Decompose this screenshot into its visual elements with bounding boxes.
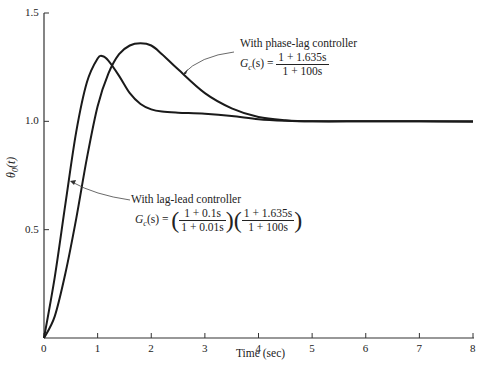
x-tick-label: 5 <box>309 342 315 354</box>
y-tick-label: 0.5 <box>25 223 39 235</box>
paren-close: ) <box>226 207 234 233</box>
arrowhead-icon <box>70 180 76 185</box>
paren-open: ( <box>234 207 242 233</box>
fraction-numerator: 1 + 1.635s <box>242 207 294 221</box>
y-tick-label: 1.5 <box>25 6 39 18</box>
fraction-numerator: 1 + 0.1s <box>179 207 226 221</box>
paren-close: ) <box>294 207 302 233</box>
annotation-arrow <box>183 52 234 74</box>
y-tick-label: 1.0 <box>25 114 39 126</box>
x-tick-label: 7 <box>416 342 422 354</box>
fraction-numerator: 1 + 1.635s <box>276 51 328 65</box>
x-tick-label: 2 <box>148 342 154 354</box>
formula-lhs-arg: (s) = <box>252 57 274 69</box>
fraction-denominator: 1 + 100s <box>276 65 328 78</box>
x-tick-label: 3 <box>202 342 208 354</box>
annotation-lag-lead: With lag-lead controller Gc(s) = ( 1 + 0… <box>131 193 302 234</box>
annotation-lag-lead-title: With lag-lead controller <box>131 193 302 206</box>
x-tick-label: 6 <box>363 342 369 354</box>
arrowhead-icon <box>183 69 188 74</box>
annotation-phase-lag: With phase-lag controller Gc(s) = 1 + 1.… <box>240 37 357 78</box>
y-axis-label-sub: 0 <box>11 168 20 172</box>
y-axis-label: θ0(t) <box>4 157 20 178</box>
formula-fraction-1: 1 + 0.1s 1 + 0.01s <box>179 207 226 234</box>
fraction-denominator: 1 + 100s <box>242 221 294 234</box>
formula-fraction: 1 + 1.635s 1 + 100s <box>276 51 328 78</box>
annotation-phase-lag-title: With phase-lag controller <box>240 37 357 50</box>
y-axis-label-main: θ <box>4 172 18 178</box>
series-phase-lag-curve <box>44 43 473 338</box>
paren-open: ( <box>171 207 179 233</box>
x-tick-label: 0 <box>41 342 47 354</box>
y-axis-label-arg: (t) <box>4 157 18 168</box>
x-tick-label: 1 <box>95 342 101 354</box>
formula-fraction-2: 1 + 1.635s 1 + 100s <box>242 207 294 234</box>
formula-lhs-arg: (s) = <box>147 213 169 225</box>
x-tick-label: 8 <box>470 342 476 354</box>
x-axis-label: Time (sec) <box>236 347 285 359</box>
fraction-denominator: 1 + 0.01s <box>179 221 226 234</box>
